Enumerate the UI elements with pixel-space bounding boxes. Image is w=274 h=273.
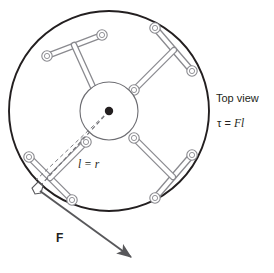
merry-go-round-torque-diagram: Top view τ = Fl l = r F (0, 0, 274, 273)
torque-equation: τ = Fl (217, 117, 244, 129)
handle-tr-knob-a-inner (152, 25, 157, 30)
handle-bl-knob-a-inner (26, 154, 31, 159)
handle-br-knob-b-inner (152, 195, 157, 200)
handle-tr-knob-c-inner (131, 87, 136, 92)
handle-bl-knob-c-inner (83, 139, 88, 144)
handle-tl-knob-b-inner (99, 32, 104, 37)
lever-arm-label: l = r (78, 158, 100, 170)
torque-equation-expression: Fl (233, 117, 244, 129)
top-view-label: Top view (216, 92, 259, 104)
center-axle-dot (105, 107, 113, 115)
handle-tl-knob-a-inner (44, 53, 49, 58)
handle-br-knob-a-inner (189, 152, 194, 157)
handle-br-knob-c-inner (131, 135, 136, 140)
force-label: F (56, 231, 63, 245)
handle-tr-knob-b-inner (189, 68, 194, 73)
handle-bl-knob-b-inner (69, 197, 74, 202)
torque-equation-prefix: τ = (217, 117, 234, 129)
